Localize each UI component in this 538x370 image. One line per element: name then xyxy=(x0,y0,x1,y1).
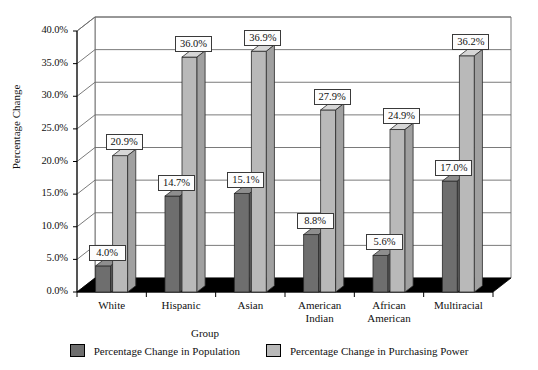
x-category-label-5: Multiracial xyxy=(410,299,506,312)
chart-legend: Percentage Change in Population Percenta… xyxy=(0,344,538,357)
data-label-asian-series1: 36.9% xyxy=(244,30,281,46)
y-tick-label-wrap: 15.0% xyxy=(18,188,68,199)
data-label-american-indian-series0: 8.8% xyxy=(297,213,334,229)
y-tick-label-wrap: 40.0% xyxy=(18,25,68,36)
legend-item-population: Percentage Change in Population xyxy=(70,344,240,357)
legend-swatch-purchasing-power xyxy=(266,344,281,357)
data-label-hispanic-series0: 14.7% xyxy=(158,175,195,191)
y-tick-label-wrap: 10.0% xyxy=(18,221,68,232)
y-tick-label: 15.0% xyxy=(18,188,68,199)
data-label-american-indian-series1: 27.9% xyxy=(314,89,351,105)
data-label-white-series0: 4.0% xyxy=(89,245,126,261)
legend-label-purchasing-power: Percentage Change in Purchasing Power xyxy=(290,345,468,357)
bar-asian-series1 xyxy=(251,45,274,292)
y-tick-label-wrap: 30.0% xyxy=(18,90,68,101)
bar-african-american-series1 xyxy=(390,123,413,292)
chart-root: 0.0%5.0%10.0%15.0%20.0%25.0%30.0%35.0%40… xyxy=(0,0,538,370)
bar-american-indian-series1 xyxy=(321,104,344,292)
x-category-line: Multiracial xyxy=(410,299,506,312)
data-label-multiracial-series0: 17.0% xyxy=(435,160,472,176)
bar-white-series1 xyxy=(113,149,136,292)
legend-label-population: Percentage Change in Population xyxy=(94,345,240,357)
y-tick-label: 20.0% xyxy=(18,156,68,167)
data-label-hispanic-series1: 36.0% xyxy=(175,36,212,52)
x-category-line: American xyxy=(341,312,437,325)
legend-item-purchasing-power: Percentage Change in Purchasing Power xyxy=(266,344,468,357)
data-label-african-american-series1: 24.9% xyxy=(383,108,420,124)
data-label-african-american-series0: 5.6% xyxy=(366,234,403,250)
y-tick-label: 5.0% xyxy=(18,253,68,264)
data-label-white-series1: 20.9% xyxy=(106,134,143,150)
y-tick-label-wrap: 35.0% xyxy=(18,58,68,69)
data-label-multiracial-series1: 36.2% xyxy=(452,34,489,50)
bar-hispanic-series1 xyxy=(182,51,205,292)
x-axis-title: Group xyxy=(0,327,538,339)
y-tick-label-wrap: 0.0% xyxy=(18,286,68,297)
y-tick-label: 40.0% xyxy=(18,25,68,36)
y-tick-label: 0.0% xyxy=(18,286,68,297)
y-tick-label-wrap: 5.0% xyxy=(18,253,68,264)
plot-area: 0.0%5.0%10.0%15.0%20.0%25.0%30.0%35.0%40… xyxy=(0,0,538,330)
y-tick-label: 30.0% xyxy=(18,90,68,101)
y-tick-label: 25.0% xyxy=(18,123,68,134)
y-tick-label-wrap: 20.0% xyxy=(18,156,68,167)
legend-swatch-population xyxy=(70,344,85,357)
y-tick-label-wrap: 25.0% xyxy=(18,123,68,134)
y-tick-label: 10.0% xyxy=(18,221,68,232)
data-label-asian-series0: 15.1% xyxy=(227,172,264,188)
y-tick-label: 35.0% xyxy=(18,58,68,69)
x-axis-title-text: Group xyxy=(191,327,219,339)
y-axis-title: Percentage Change xyxy=(10,67,22,187)
